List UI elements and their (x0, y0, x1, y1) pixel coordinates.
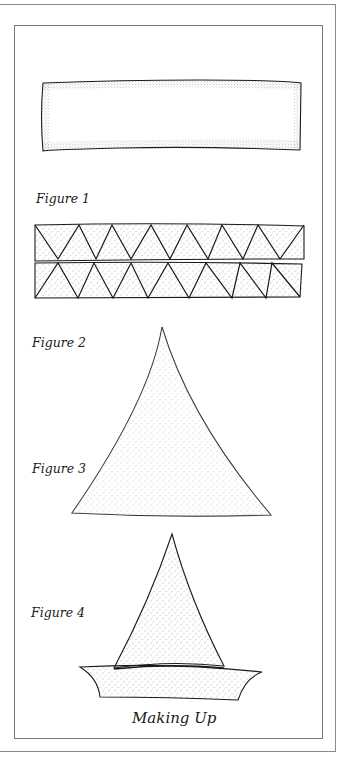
fabric-rectangle (42, 80, 302, 151)
curved-triangle (72, 327, 271, 516)
figure-2-label: Figure 2 (32, 335, 86, 350)
figure-4-label: Figure 4 (31, 605, 85, 620)
figure-1-label: Figure 1 (36, 191, 90, 206)
figure-3-label: Figure 3 (32, 461, 86, 476)
illustration-canvas (0, 0, 343, 759)
caption-making-up: Making Up (132, 709, 216, 727)
hat-assembly (80, 534, 262, 700)
triangle-strip (35, 224, 304, 298)
